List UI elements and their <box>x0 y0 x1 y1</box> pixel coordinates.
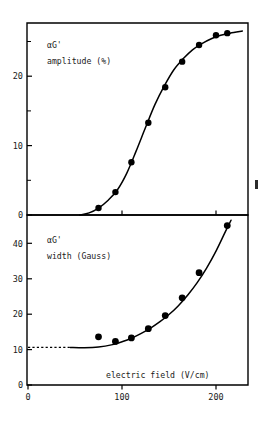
bottom-panel-y-ticks <box>27 243 32 385</box>
bottom-xtick-label-200: 200 <box>208 392 223 402</box>
bottom-panel: 0 10 20 30 40 0 100 200 αG' width (Gauss… <box>13 215 248 402</box>
data-point <box>162 84 168 90</box>
bottom-ytick-label-20: 20 <box>13 309 23 319</box>
bottom-panel-annotation-symbol: αG' <box>47 235 62 245</box>
bottom-ytick-label-40: 40 <box>13 239 23 249</box>
bottom-ytick-label-30: 30 <box>13 274 23 284</box>
page-edge-artifact <box>255 180 258 189</box>
x-axis-title: electric field (V/cm) <box>106 370 210 380</box>
data-point <box>224 30 230 36</box>
top-panel-annotation-quantity: amplitude (%) <box>47 56 111 66</box>
data-point <box>112 338 119 345</box>
data-point <box>128 334 135 341</box>
data-point <box>145 325 152 332</box>
data-point <box>95 205 101 211</box>
data-point <box>196 269 203 276</box>
top-ytick-label-20: 20 <box>13 71 23 81</box>
top-panel-annotation-symbol: αG' <box>47 40 62 50</box>
data-point <box>145 120 151 126</box>
top-panel-frame <box>27 23 248 215</box>
figure-container: 0 10 20 αG' amplitude (%) <box>0 0 264 423</box>
data-point <box>224 222 231 229</box>
top-ytick-label-0: 0 <box>18 210 23 220</box>
data-point <box>213 32 219 38</box>
data-point <box>179 294 186 301</box>
data-point <box>179 58 185 64</box>
data-point <box>196 42 202 48</box>
two-panel-scatter-figure: 0 10 20 αG' amplitude (%) <box>0 0 264 423</box>
bottom-ytick-label-0: 0 <box>18 380 23 390</box>
top-panel-y-ticks <box>27 42 32 216</box>
data-point <box>162 312 169 319</box>
bottom-xtick-label-0: 0 <box>25 392 30 402</box>
top-ytick-label-10: 10 <box>13 141 23 151</box>
data-point <box>128 159 134 165</box>
bottom-panel-data-points <box>95 222 231 345</box>
top-panel-data-points <box>95 30 230 211</box>
bottom-xtick-label-100: 100 <box>114 392 129 402</box>
bottom-panel-annotation-quantity: width (Gauss) <box>47 251 111 261</box>
data-point <box>95 333 102 340</box>
top-panel: 0 10 20 αG' amplitude (%) <box>13 23 248 220</box>
bottom-ytick-label-10: 10 <box>13 345 23 355</box>
data-point <box>112 189 118 195</box>
